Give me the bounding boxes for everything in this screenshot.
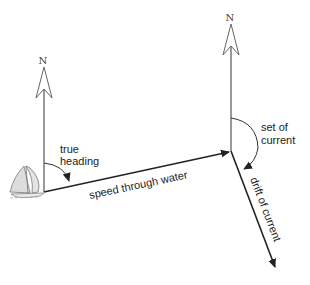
north-label-left: N [39, 55, 48, 66]
north-label-right: N [226, 12, 235, 23]
set-of-current-label-line1: set of [261, 121, 289, 133]
current-triangle-diagram: N N true heading speed through water set… [0, 0, 310, 285]
speed-through-water-label: speed through water [88, 168, 189, 201]
north-arrow-left: N [36, 55, 52, 192]
true-heading-label-line2: heading [60, 155, 99, 167]
set-of-current-label-line2: current [261, 134, 295, 146]
north-arrow-right: N [223, 12, 239, 151]
sailboat-icon [10, 166, 44, 198]
true-heading-label-line1: true [60, 143, 79, 155]
